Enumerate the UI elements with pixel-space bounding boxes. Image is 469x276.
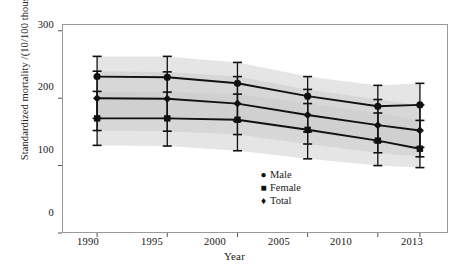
legend-marker-diamond-icon: ♦ — [258, 194, 269, 207]
x-tick-label-2010: 2010 — [318, 236, 364, 247]
x-tick-label-2013: 2013 — [389, 236, 435, 247]
x-axis-title: Year — [0, 250, 469, 262]
legend-item-male: ● Male — [258, 168, 301, 181]
y-tick-label-0: 0 — [22, 207, 54, 218]
confidence-band-group — [97, 56, 420, 167]
chart-legend: ● Male ■ Female ♦ Total — [258, 168, 301, 207]
x-tick-label-2000: 2000 — [192, 236, 238, 247]
legend-label-female: Female — [270, 181, 301, 194]
mortality-trend-chart: 300 200 100 0 1990 1995 2000 2005 2010 2… — [0, 0, 469, 276]
legend-item-female: ■ Female — [258, 181, 301, 194]
legend-item-total: ♦ Total — [258, 194, 301, 207]
legend-marker-square-icon: ■ — [258, 181, 269, 194]
y-axis-title: Standardized mortality /(10/100 thousand… — [19, 0, 30, 167]
x-tick-label-1990: 1990 — [65, 236, 111, 247]
legend-label-total: Total — [270, 194, 291, 207]
chart-canvas — [0, 0, 469, 276]
legend-marker-circle-icon: ● — [258, 168, 269, 181]
legend-label-male: Male — [270, 168, 292, 181]
x-tick-label-1995: 1995 — [129, 236, 175, 247]
y-axis-title-wrapper: Standardized mortality /(10/100 thousand… — [19, 0, 39, 167]
x-tick-label-2005: 2005 — [256, 236, 302, 247]
